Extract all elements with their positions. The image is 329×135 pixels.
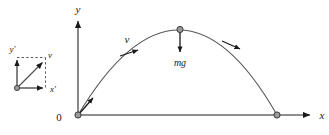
apex-point-marker	[177, 26, 183, 32]
landing-point-marker	[274, 112, 280, 118]
trajectory-curve	[78, 30, 277, 115]
gravity-force-label: mg	[174, 57, 186, 68]
velocity-label: v	[125, 33, 130, 45]
figure-canvas: y′ x′ v v mg y x 0	[0, 0, 329, 135]
inset-x-axis-label: x′	[49, 84, 57, 94]
inset-origin-marker	[14, 85, 19, 90]
inset-velocity-decomposition: y′ x′ v	[9, 44, 57, 94]
inset-velocity-label: v	[48, 50, 52, 60]
inset-y-axis-label: y′	[9, 44, 17, 54]
projectile-motion-figure: y′ x′ v v mg y x 0	[0, 0, 329, 135]
launch-velocity-arrow	[79, 98, 93, 114]
launch-point-marker	[75, 112, 81, 118]
x-axis-label: x	[319, 109, 325, 121]
origin-label: 0	[56, 111, 62, 123]
inset-velocity-vector-arrow	[18, 63, 43, 88]
main-axes	[78, 21, 310, 115]
y-axis-label: y	[75, 3, 81, 15]
